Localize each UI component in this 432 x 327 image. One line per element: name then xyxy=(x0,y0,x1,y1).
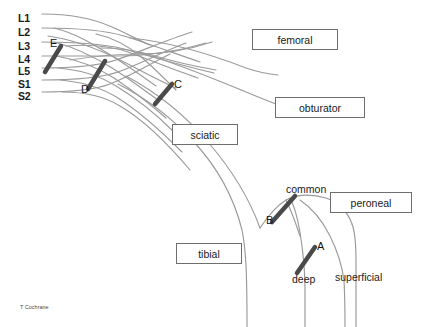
marker-label-c: C xyxy=(174,79,182,90)
branch-label-deep: deep xyxy=(292,274,315,285)
author-credit: T Cochrane xyxy=(20,305,49,311)
nerve-path-sciatic-a xyxy=(118,84,247,327)
nerve-box-sciatic: sciatic xyxy=(172,124,238,145)
marker-bar-a xyxy=(297,247,315,273)
nerve-box-obturator: obturator xyxy=(275,97,365,118)
root-label-l5: L5 xyxy=(18,66,30,77)
marker-label-b: B xyxy=(266,215,273,226)
nerve-path-superficial xyxy=(300,200,345,327)
root-label-l1: L1 xyxy=(18,13,30,24)
nerve-path-sciatic-b xyxy=(126,76,260,228)
root-label-s1: S1 xyxy=(18,79,30,90)
root-label-l3: L3 xyxy=(18,41,30,52)
nerve-box-peroneal: peroneal xyxy=(330,192,412,213)
marker-label-d: D xyxy=(81,84,89,95)
marker-label-a: A xyxy=(317,241,324,252)
plexus-diagram-canvas: L1 L2 L3 L4 L5 S1 S2 femoral obturator s… xyxy=(0,0,432,327)
root-label-l2: L2 xyxy=(18,27,30,38)
nerve-box-tibial: tibial xyxy=(176,243,242,264)
branch-label-common: common xyxy=(286,184,326,195)
marker-bar-c xyxy=(155,84,172,104)
branch-label-superficial: superficial xyxy=(335,272,382,283)
nerve-root-lines xyxy=(42,14,216,170)
root-label-s2: S2 xyxy=(18,91,30,102)
nerve-box-femoral: femoral xyxy=(252,29,338,50)
root-label-l4: L4 xyxy=(18,54,30,65)
marker-label-e: E xyxy=(50,38,57,49)
